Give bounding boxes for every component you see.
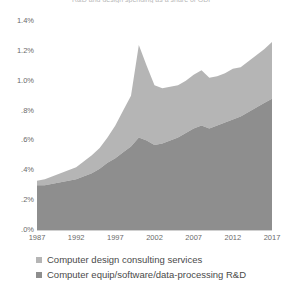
legend-swatch-icon xyxy=(36,257,42,263)
x-axis-tick-label: 2012 xyxy=(224,233,241,242)
y-axis-tick-label: .8% xyxy=(0,107,34,115)
x-axis-tick-label: 1987 xyxy=(29,233,46,242)
legend-item-label: Computer equip/software/data-processing … xyxy=(47,269,246,280)
legend-item-computer-design-consulting-services: Computer design consulting services xyxy=(36,252,285,267)
legend-item-computer-equip-software-rd: Computer equip/software/data-processing … xyxy=(36,267,285,282)
x-axis-tick-label: 1992 xyxy=(68,233,85,242)
y-axis: 1.4%1.2%1.0%.8%.6%.4%.2%.0% xyxy=(0,21,34,230)
legend-swatch-icon xyxy=(36,272,42,278)
y-axis-tick-label: .2% xyxy=(0,196,34,204)
legend-item-label: Computer design consulting services xyxy=(47,254,202,265)
y-axis-tick-label: .4% xyxy=(0,166,34,174)
x-axis-tick-label: 2002 xyxy=(146,233,163,242)
x-axis-tick-label: 2007 xyxy=(185,233,202,242)
x-axis-line xyxy=(37,230,272,231)
y-axis-tick-label: .6% xyxy=(0,136,34,144)
x-axis-tick-label: 1997 xyxy=(107,233,124,242)
chart-legend: Computer design consulting services Comp… xyxy=(36,252,285,282)
chart-title: R&D and design spending as a share of GD… xyxy=(0,0,285,3)
y-axis-tick-label: 1.2% xyxy=(0,47,34,55)
y-axis-tick-label: 1.0% xyxy=(0,77,34,85)
y-axis-tick-label: 1.4% xyxy=(0,17,34,25)
plot-area xyxy=(37,21,272,230)
x-axis: 1987199219972002200720122017 xyxy=(37,233,272,245)
area-chart-svg xyxy=(37,21,272,230)
x-axis-tick-label: 2017 xyxy=(264,233,281,242)
